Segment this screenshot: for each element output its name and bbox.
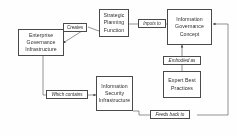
edge-label-which-contains: Which contains — [46, 90, 88, 99]
edge-label-feeds-back-to: Feeds back to — [150, 110, 190, 119]
node-line: Strategic — [104, 12, 125, 19]
node-line: Expert Best — [168, 77, 195, 84]
connector-spf-to-creates — [88, 27, 99, 31]
diagram-canvas: Enterprise Governance Infrastructure Str… — [0, 0, 237, 136]
node-line: Governance — [175, 23, 204, 30]
node-line: Enterprise — [29, 32, 53, 39]
node-information-governance-concept[interactable]: Information Governance Concept — [167, 9, 212, 45]
node-line: Function — [104, 27, 124, 34]
node-strategic-planning-function[interactable]: Strategic Planning Function — [99, 9, 129, 37]
connector-isi-to-feedsback — [133, 111, 150, 115]
node-line: Information — [101, 83, 128, 90]
node-line: Practices — [171, 85, 193, 92]
node-line: Infrastructure — [25, 46, 56, 53]
node-line: Information — [176, 16, 203, 23]
node-line: Concept — [180, 31, 200, 38]
connector-creates-to-egi — [63, 31, 82, 43]
node-enterprise-governance-infrastructure[interactable]: Enterprise Governance Infrastructure — [18, 29, 64, 56]
node-expert-best-practices[interactable]: Expert Best Practices — [163, 71, 201, 98]
node-line: Governance — [27, 39, 56, 46]
node-line: Security — [105, 90, 124, 97]
node-information-security-infrastructure[interactable]: Information Security Infrastructure — [96, 76, 133, 111]
node-line: Planning — [104, 19, 125, 26]
edge-label-inputs-to: Inputs to — [138, 19, 166, 28]
node-line: Infrastructure — [99, 97, 130, 104]
edge-label-embodied-as: Embodied as — [163, 56, 201, 65]
edge-label-creates: Creates — [63, 23, 87, 32]
